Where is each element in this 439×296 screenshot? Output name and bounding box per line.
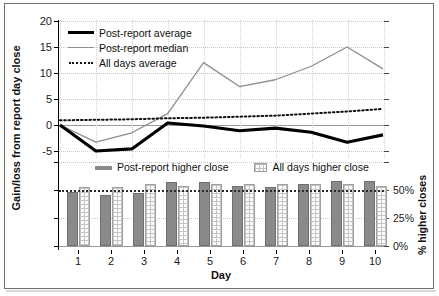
xtick-label-3: 3 [141,255,147,267]
tick-0pct [54,246,59,247]
legend-item-post-report-median: Post-report median [68,40,192,55]
xtick-6 [243,250,244,254]
xtick-label-9: 9 [339,255,345,267]
xtick-label-5: 5 [207,255,213,267]
bar-all-days-higher-close-day-9 [343,184,354,246]
xtick-2 [111,250,112,254]
right-axis-title-text: % higher closes [416,175,428,255]
xtick-label-6: 6 [240,255,246,267]
bar-all-days-higher-close-day-3 [145,184,156,246]
xtick-3 [144,250,145,254]
solid-bar-icon [95,166,112,170]
xtick-5 [210,250,211,254]
x-axis-title: Day [58,269,384,281]
left-axis-title: Gain/loss from report day close [8,20,24,235]
series-post-report-average [60,123,383,151]
ytick-label-0: 0 [46,119,52,131]
right-tick-top-4 [384,99,389,100]
legend-item-all-days-higher-close: All days higher close [254,161,368,173]
xtick-8 [309,250,310,254]
reference-line-50pct [59,190,384,192]
right-tick-top-3 [384,73,389,74]
right-tick-0pct [384,246,389,247]
bar-all-days-higher-close-day-10 [376,186,387,247]
ytick-label-0pct: 0% [393,240,408,252]
thin-line-icon [68,43,94,53]
bar-post-report-higher-close-day-6 [232,186,243,247]
bar-all-days-higher-close-day-5 [211,184,222,246]
bar-post-report-higher-close-day-1 [67,192,78,246]
right-tick-top-2 [384,47,389,48]
ytick-label-25pct: 25% [393,212,414,224]
xtick-4 [177,250,178,254]
right-axis-title: % higher closes [414,160,430,270]
xtick-label-4: 4 [174,255,180,267]
line-chart-legend: Post-report average Post-report median A… [68,25,192,70]
legend-label-all-days-higher-close: All days higher close [272,161,368,173]
ytick-label-minus5: -5 [42,145,52,157]
dotted-line-icon [68,58,94,68]
bar-all-days-higher-close-day-1 [79,187,90,246]
legend-item-post-report-average: Post-report average [68,25,192,40]
xtick-10 [375,250,376,254]
bar-post-report-higher-close-day-8 [298,184,309,246]
right-tick-top-1 [384,21,389,22]
bar-all-days-higher-close-day-2 [112,187,123,246]
ytick-label-10: 10 [40,67,52,79]
xtick-1 [78,250,79,254]
ytick-label-5: 5 [46,93,52,105]
ytick-label-15: 15 [40,41,52,53]
bar-post-report-higher-close-day-3 [133,193,144,246]
ytick-label-50pct: 50% [393,184,414,196]
legend-item-all-days-average: All days average [68,55,192,70]
right-tick-top-5 [384,125,389,126]
bar-post-report-higher-close-day-2 [100,195,111,247]
frame-shadow [6,290,436,292]
bar-post-report-higher-close-day-7 [265,187,276,246]
bar-all-days-higher-close-day-4 [178,186,189,247]
legend-label-post-report-average: Post-report average [99,27,192,39]
hatched-bar-icon [254,163,267,172]
bar-chart-legend: Post-report higher close All days higher… [95,161,369,173]
right-tick-75pct [384,162,389,163]
ytick-label-20: 20 [40,15,52,27]
xtick-label-2: 2 [108,255,114,267]
bar-all-days-higher-close-day-7 [277,184,288,246]
legend-label-post-report-higher-close: Post-report higher close [117,161,228,173]
xtick-label-8: 8 [306,255,312,267]
legend-label-post-report-median: Post-report median [99,42,188,54]
baseline-0pct [59,246,384,247]
left-axis-title-text: Gain/loss from report day close [10,45,22,210]
xtick-9 [342,250,343,254]
legend-item-post-report-higher-close: Post-report higher close [95,161,228,173]
xtick-label-10: 10 [369,255,381,267]
chart-screenshot: Gain/loss from report day close % higher… [0,0,439,296]
thick-line-icon [68,28,94,38]
bar-all-days-higher-close-day-6 [244,184,255,246]
bar-all-days-higher-close-day-8 [310,184,321,246]
right-tick-top-6 [384,151,389,152]
legend-label-all-days-average: All days average [99,57,177,69]
series-all-days-average [60,109,383,120]
xtick-7 [276,250,277,254]
xtick-label-7: 7 [273,255,279,267]
vgridline-day-10 [384,20,385,158]
xtick-label-1: 1 [75,255,81,267]
